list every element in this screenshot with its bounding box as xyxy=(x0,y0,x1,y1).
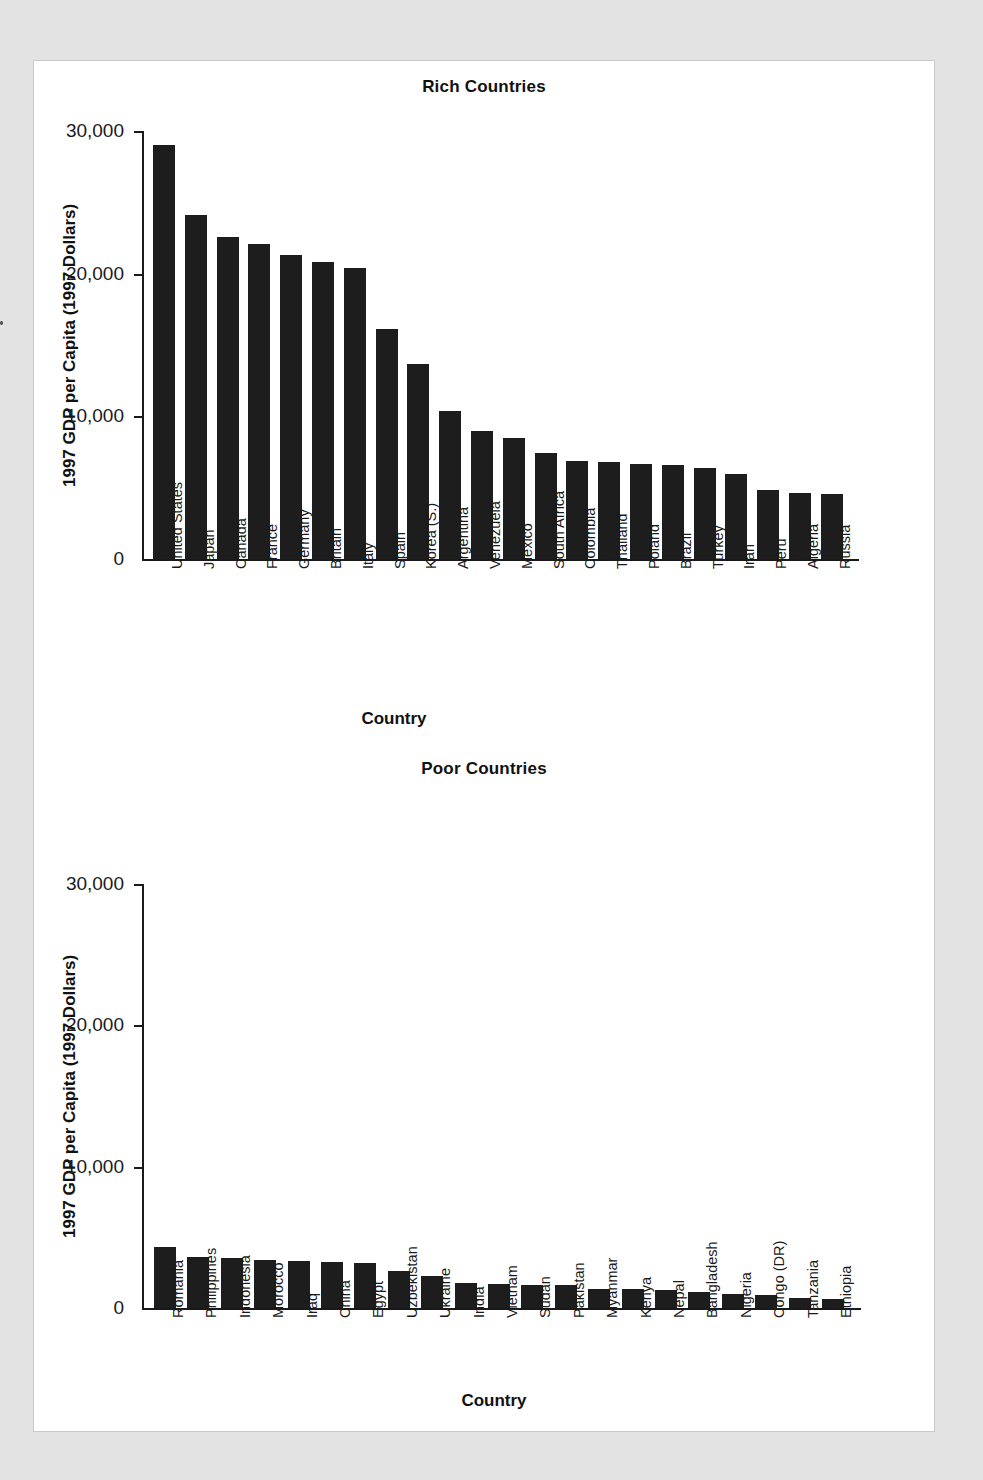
y-tick-label: 0 xyxy=(32,1298,124,1317)
x-tick-label: Kenya xyxy=(639,1277,654,1318)
x-tick-label: Romania xyxy=(171,1260,186,1318)
x-tick-label: Peru xyxy=(774,538,789,569)
y-tick-label: 30,000 xyxy=(32,874,124,893)
x-tick-label: Venezuela xyxy=(488,501,503,569)
x-tick-label: South Africa xyxy=(552,491,567,569)
y-tick-mark xyxy=(134,1167,143,1169)
x-axis-label-rich: Country xyxy=(234,709,554,729)
x-tick-label: United States xyxy=(170,482,185,569)
x-tick-label: Italy xyxy=(361,542,376,569)
x-tick-label: Russia xyxy=(838,525,853,569)
x-tick-label: Germany xyxy=(297,509,312,569)
plot-area-rich: 010,00020,00030,000United StatesJapanCan… xyxy=(34,61,934,751)
page-background: Rich Countries 1997 GDP per Capita (1997… xyxy=(0,0,983,1480)
bar xyxy=(248,244,270,559)
bar xyxy=(217,237,239,559)
x-tick-label: Brazil xyxy=(679,533,694,569)
chart-rich-countries: Rich Countries 1997 GDP per Capita (1997… xyxy=(34,61,934,751)
x-tick-label: China xyxy=(338,1280,353,1318)
x-tick-label: France xyxy=(265,524,280,569)
x-tick-label: Thailand xyxy=(615,513,630,569)
x-tick-label: Congo (DR) xyxy=(772,1241,787,1318)
x-tick-label: Algeria xyxy=(806,524,821,569)
y-tick-label: 30,000 xyxy=(32,121,124,140)
x-tick-label: Colombia xyxy=(583,508,598,569)
bar xyxy=(376,329,398,559)
x-tick-label: Japan xyxy=(202,529,217,569)
x-tick-label: Turkey xyxy=(711,525,726,569)
x-tick-label: Spain xyxy=(393,532,408,569)
x-tick-label: Vietnam xyxy=(505,1265,520,1318)
x-tick-label: Indonesia xyxy=(238,1255,253,1318)
bar xyxy=(185,215,207,559)
x-tick-label: Myanmar xyxy=(605,1258,620,1318)
x-tick-label: Iraq xyxy=(305,1293,320,1318)
x-tick-label: Uzbekistan xyxy=(405,1246,420,1318)
y-axis-line xyxy=(142,884,144,1310)
x-tick-label: Nigeria xyxy=(739,1272,754,1318)
x-tick-label: Poland xyxy=(647,524,662,569)
y-tick-label: 20,000 xyxy=(32,264,124,283)
y-axis-line xyxy=(142,131,144,561)
x-tick-label: Pakistan xyxy=(572,1262,587,1318)
y-tick-mark xyxy=(134,884,143,886)
x-tick-label: Ethiopia xyxy=(839,1266,854,1318)
y-tick-label: 10,000 xyxy=(32,1157,124,1176)
y-tick-label: 20,000 xyxy=(32,1015,124,1034)
x-tick-label: Ukraine xyxy=(438,1268,453,1318)
x-tick-label: Philippines xyxy=(204,1248,219,1318)
page-speck xyxy=(0,321,3,325)
y-tick-mark xyxy=(134,274,143,276)
y-tick-label: 10,000 xyxy=(32,406,124,425)
x-tick-label: Morocco xyxy=(271,1262,286,1318)
x-tick-label: Bangladesh xyxy=(705,1241,720,1318)
y-tick-mark xyxy=(134,131,143,133)
x-tick-label: Iran xyxy=(742,544,757,569)
bar xyxy=(312,262,334,559)
y-tick-label: 0 xyxy=(32,549,124,568)
y-tick-mark xyxy=(134,416,143,418)
x-tick-label: Britain xyxy=(329,528,344,569)
x-tick-label: Egypt xyxy=(371,1281,386,1318)
x-axis-label-poor: Country xyxy=(414,1391,574,1411)
y-tick-mark xyxy=(134,1025,143,1027)
x-tick-label: Sudan xyxy=(538,1276,553,1318)
x-tick-label: Tanzania xyxy=(806,1260,821,1318)
figure-panel: Rich Countries 1997 GDP per Capita (1997… xyxy=(33,60,935,1432)
plot-area-poor: 010,00020,00030,000RomaniaPhilippinesInd… xyxy=(34,751,934,1433)
x-tick-label: Canada xyxy=(234,518,249,569)
x-tick-label: Mexico xyxy=(520,523,535,569)
x-tick-label: India xyxy=(472,1287,487,1318)
x-tick-label: Nepal xyxy=(672,1280,687,1318)
bar xyxy=(344,268,366,559)
x-tick-label: Korea (S.) xyxy=(424,503,439,569)
chart-poor-countries: Poor Countries 1997 GDP per Capita (1997… xyxy=(34,751,934,1433)
x-tick-label: Argentina xyxy=(456,507,471,569)
